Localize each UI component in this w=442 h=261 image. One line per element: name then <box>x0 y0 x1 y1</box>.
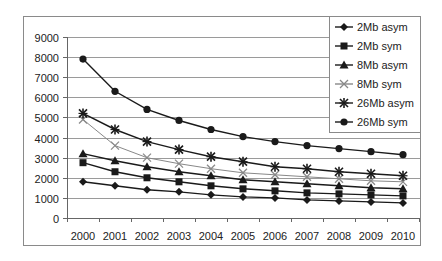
marker-asterisk-icon <box>79 108 88 118</box>
marker-asterisk-icon <box>143 137 152 147</box>
x-tick-label: 2003 <box>167 230 191 242</box>
legend-label: 2Mb sym <box>357 40 402 52</box>
marker-square-icon <box>336 190 343 197</box>
marker-asterisk-icon <box>271 162 280 172</box>
marker-square-icon <box>272 187 279 194</box>
marker-square-icon <box>304 189 311 196</box>
marker-circle-icon <box>303 142 310 149</box>
marker-square-icon <box>80 159 87 166</box>
marker-circle-icon <box>367 148 374 155</box>
marker-square-icon <box>144 174 151 181</box>
x-tick-label: 2006 <box>263 230 287 242</box>
marker-square-icon <box>112 168 119 175</box>
y-tick-label: 5000 <box>35 112 59 124</box>
y-tick-label: 7000 <box>35 72 59 84</box>
marker-asterisk-icon <box>399 171 408 181</box>
marker-circle-icon <box>207 126 214 133</box>
marker-square-icon <box>176 178 183 185</box>
marker-asterisk-icon <box>367 169 376 179</box>
legend-label: 26Mb sym <box>357 116 408 128</box>
marker-asterisk-icon <box>207 152 216 162</box>
marker-circle-icon <box>175 117 182 124</box>
marker-square-icon <box>400 192 407 199</box>
y-tick-label: 2000 <box>35 173 59 185</box>
marker-circle-icon <box>239 133 246 140</box>
marker-circle-icon <box>340 118 347 125</box>
legend: 2Mb asym2Mb sym8Mb asym8Mb sym26Mb asym2… <box>330 17 421 133</box>
y-tick-label: 9000 <box>35 32 59 44</box>
y-tick-label: 8000 <box>35 52 59 64</box>
x-tick-label: 2009 <box>359 230 383 242</box>
y-tick-label: 0 <box>53 213 59 225</box>
marker-asterisk-icon <box>239 157 248 167</box>
y-tick-label: 3000 <box>35 153 59 165</box>
line-chart: 0100020003000400050006000700080009000 20… <box>0 0 442 261</box>
marker-circle-icon <box>111 88 118 95</box>
x-tick-label: 2010 <box>391 230 415 242</box>
marker-circle-icon <box>399 151 406 158</box>
legend-label: 8Mb asym <box>357 59 408 71</box>
marker-asterisk-icon <box>175 145 184 155</box>
marker-square-icon <box>368 191 375 198</box>
marker-asterisk-icon <box>335 167 344 177</box>
y-tick-label: 4000 <box>35 133 59 145</box>
legend-label: 2Mb asym <box>357 21 408 33</box>
x-tick-label: 2007 <box>295 230 319 242</box>
marker-circle-icon <box>335 145 342 152</box>
y-tick-label: 1000 <box>35 193 59 205</box>
legend-label: 8Mb sym <box>357 78 402 90</box>
x-tick-label: 2001 <box>103 230 127 242</box>
legend-label: 26Mb asym <box>357 97 414 109</box>
marker-circle-icon <box>271 138 278 145</box>
marker-circle-icon <box>143 106 150 113</box>
marker-square-icon <box>208 182 215 189</box>
marker-circle-icon <box>79 56 86 63</box>
marker-asterisk-icon <box>340 98 349 108</box>
x-tick-label: 2005 <box>231 230 255 242</box>
marker-square-icon <box>341 43 348 50</box>
y-tick-label: 6000 <box>35 92 59 104</box>
x-tick-label: 2002 <box>135 230 159 242</box>
x-tick-label: 2000 <box>71 230 95 242</box>
x-tick-label: 2004 <box>199 230 223 242</box>
marker-asterisk-icon <box>303 164 312 174</box>
x-tick-label: 2008 <box>327 230 351 242</box>
marker-square-icon <box>240 185 247 192</box>
marker-asterisk-icon <box>111 125 120 135</box>
